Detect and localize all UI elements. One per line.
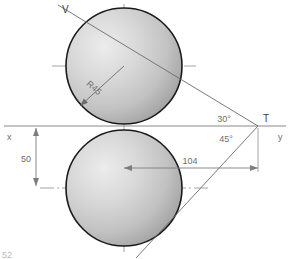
dimension-50: 50 (21, 128, 36, 186)
technical-drawing: R45 50 104 30° 45° T V x y 52 (0, 0, 290, 259)
axis-y-label: y (278, 132, 283, 142)
dimension-50-label: 50 (21, 154, 31, 164)
point-T-label: T (263, 113, 269, 124)
angle-45-label: 45° (219, 134, 233, 144)
angle-30-label: 30° (217, 114, 231, 124)
clipped-note-label: 52 (2, 250, 12, 259)
axis-x-label: x (7, 132, 12, 142)
point-V-label: V (62, 4, 69, 15)
dimension-104-label: 104 (182, 156, 197, 166)
drawing-canvas: R45 50 104 30° 45° T V x y 52 (0, 0, 290, 259)
lower-circle (66, 130, 182, 246)
